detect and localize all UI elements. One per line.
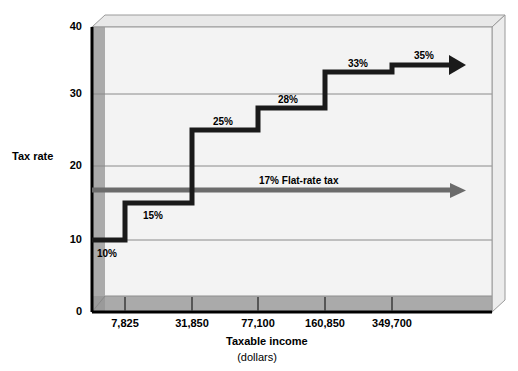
plot-area-background (92, 27, 492, 312)
y-tick-label-30: 30 (56, 88, 82, 99)
step-label-35-percent: 35% (414, 51, 434, 61)
plot-left-wall (92, 27, 105, 312)
step-label-10-percent: 10% (97, 249, 117, 259)
tax-rate-chart: 40 30 20 10 0 Tax rate 7,825 31,850 77,1… (0, 0, 518, 371)
plot-floor-band (92, 296, 492, 312)
y-tick-label-0: 0 (56, 306, 82, 317)
step-label-25-percent: 25% (213, 117, 233, 127)
x-tick-label-31850: 31,850 (156, 318, 228, 329)
x-axis-title: Taxable income (226, 336, 308, 347)
y-axis-title: Tax rate (12, 151, 53, 162)
x-tick-label-349700: 349,700 (356, 318, 428, 329)
x-tick-label-7825: 7,825 (89, 318, 161, 329)
flat-rate-tax-label: 17% Flat-rate tax (259, 176, 338, 186)
x-tick-label-77100: 77,100 (222, 318, 294, 329)
y-tick-label-20: 20 (56, 160, 82, 171)
plot-top-bevel (92, 15, 505, 27)
step-label-33-percent: 33% (348, 59, 368, 69)
x-tick-label-160850: 160,850 (289, 318, 361, 329)
step-label-28-percent: 28% (278, 95, 298, 105)
plot-right-bevel (492, 15, 505, 312)
y-tick-label-40: 40 (56, 21, 82, 32)
step-label-15-percent: 15% (143, 211, 163, 221)
x-axis-subtitle: (dollars) (197, 352, 317, 363)
y-tick-label-10: 10 (56, 234, 82, 245)
